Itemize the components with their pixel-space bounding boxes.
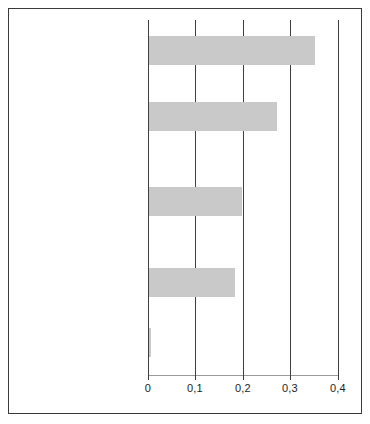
x-tick-label-0: 0	[128, 382, 168, 394]
x-tick-label-0-3: 0,3	[270, 382, 310, 394]
bar-job-passung	[149, 268, 235, 297]
x-tick-0	[148, 375, 149, 380]
x-tick-0-3	[290, 375, 291, 380]
gridline-0-3	[290, 20, 291, 375]
x-tick-label-0-1: 0,1	[175, 382, 215, 394]
x-tick-label-0-4: 0,4	[318, 382, 358, 394]
x-tick-0-2	[243, 375, 244, 380]
x-tick-0-4	[338, 375, 339, 380]
gridline-0-4	[338, 20, 339, 375]
x-tick-label-0-2: 0,2	[223, 382, 263, 394]
x-tick-0-1	[195, 375, 196, 380]
bar-bedeutsamkeit	[149, 36, 315, 65]
plot-area	[148, 20, 338, 375]
bar-selbsttranszendente-orientierung	[149, 187, 242, 216]
bar-sozio-moralisches-klima	[149, 102, 277, 131]
gridline-0-2	[243, 20, 244, 375]
bar-person	[149, 328, 151, 357]
chart-figure: Bedeutsamkeit der Tätigkeit Sozio-morali…	[0, 0, 370, 424]
